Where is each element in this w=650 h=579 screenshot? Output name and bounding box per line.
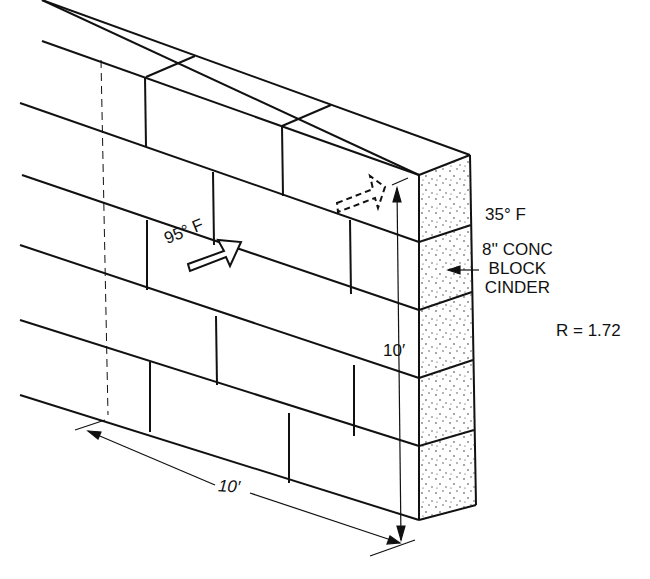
material-label-line1: 8'' CONC bbox=[482, 240, 553, 259]
dashed-reference-line bbox=[101, 60, 108, 415]
length-dimension-label: 10′ bbox=[217, 477, 240, 496]
block-end-face bbox=[419, 155, 476, 520]
length-dimension bbox=[75, 420, 415, 556]
wall-face-lines bbox=[20, 0, 476, 520]
material-label: 8'' CONC BLOCK CINDER bbox=[482, 240, 553, 297]
material-label-line2: BLOCK bbox=[482, 259, 553, 278]
r-value-label: R = 1.72 bbox=[556, 322, 621, 339]
wall-diagram: 35° F 8'' CONC BLOCK CINDER R = 1.72 95°… bbox=[0, 0, 650, 579]
heat-out-arrow-icon bbox=[337, 176, 385, 212]
material-label-line3: CINDER bbox=[482, 278, 553, 297]
height-dimension-label: 10′ bbox=[383, 342, 405, 359]
outside-temperature-label: 35° F bbox=[485, 206, 526, 223]
